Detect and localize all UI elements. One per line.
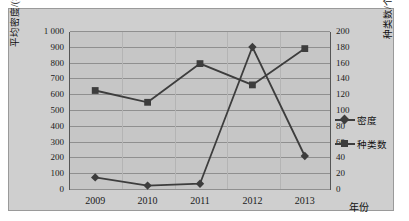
y-tick-left: 300 <box>24 138 64 147</box>
x-axis-title: 年份 <box>349 199 369 214</box>
y-tick-right: 140 <box>336 74 376 83</box>
series-line-square <box>95 49 305 103</box>
x-tick-2010: 2010 <box>122 196 174 205</box>
diamond-marker-icon <box>335 115 355 125</box>
x-tick-2013: 2013 <box>279 196 331 205</box>
chart-legend: 密度种类数 <box>335 113 401 161</box>
y-tick-right: 160 <box>336 59 376 68</box>
y-tick-left: 600 <box>24 90 64 99</box>
y-axis-left-title: 平均密度/(×104 个/m3) <box>7 0 21 47</box>
y-tick-left: 500 <box>24 106 64 115</box>
x-tick-2012: 2012 <box>226 196 278 205</box>
y-tick-right: 180 <box>336 43 376 52</box>
series-line-diamond <box>95 47 305 186</box>
y-tick-left: 700 <box>24 74 64 83</box>
data-point-square <box>197 60 204 67</box>
data-point-diamond <box>143 181 151 189</box>
data-point-square <box>92 87 99 94</box>
y-tick-right: 200 <box>336 27 376 36</box>
data-point-diamond <box>301 152 309 160</box>
data-point-diamond <box>248 43 256 51</box>
y-tick-left: 0 <box>24 185 64 194</box>
y-tick-right: 20 <box>336 169 376 178</box>
chart-root: 1 0009008007006005004003002001000 200180… <box>0 0 409 221</box>
legend-label: 密度 <box>357 113 377 127</box>
data-point-square <box>301 45 308 52</box>
legend-label: 种类数 <box>357 137 387 151</box>
y-tick-left: 1 000 <box>24 27 64 36</box>
chart-frame: 1 0009008007006005004003002001000 200180… <box>8 8 394 211</box>
y-tick-left: 400 <box>24 122 64 131</box>
y-tick-left: 100 <box>24 169 64 178</box>
y-tick-right: 120 <box>336 90 376 99</box>
legend-item-1[interactable]: 种类数 <box>335 137 401 150</box>
square-marker-icon <box>335 139 355 149</box>
y-tick-left: 800 <box>24 59 64 68</box>
y-tick-left: 200 <box>24 153 64 162</box>
y-tick-left: 900 <box>24 43 64 52</box>
y-tick-right: 0 <box>336 185 376 194</box>
data-point-diamond <box>196 180 204 188</box>
y-axis-right-title: 种类数/个 <box>380 0 394 39</box>
legend-item-0[interactable]: 密度 <box>335 113 401 126</box>
data-point-square <box>144 99 151 106</box>
x-tick-2011: 2011 <box>174 196 226 205</box>
data-point-square <box>249 82 256 89</box>
x-tick-2009: 2009 <box>69 196 121 205</box>
series-overlay <box>69 32 331 190</box>
data-point-diamond <box>91 173 99 181</box>
